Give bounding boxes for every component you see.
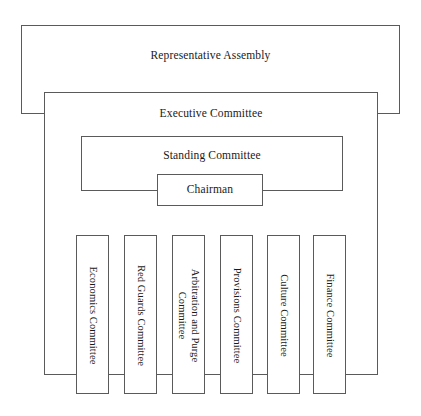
sub-committee-label-5: Culture Committee [268, 236, 299, 395]
org-chart: Representative Assembly Executive Commit… [0, 0, 421, 416]
sub-committee-label-3: Arbitration and Purge Committee [173, 236, 204, 395]
sub-committee-box-1[interactable]: Economics Committee [76, 235, 109, 394]
standing-committee-label: Standing Committee [82, 149, 342, 161]
sub-committee-label-4: Provisions Committee [221, 236, 252, 395]
chairman-label: Chairman [158, 183, 262, 195]
sub-committee-box-6[interactable]: Finance Committee [313, 235, 346, 394]
executive-committee-label: Executive Committee [45, 107, 377, 119]
representative-assembly-label: Representative Assembly [22, 49, 399, 61]
sub-committee-box-2[interactable]: Red Guards Committee [124, 235, 157, 394]
sub-committee-label-1: Economics Committee [77, 236, 108, 395]
sub-committee-box-3[interactable]: Arbitration and Purge Committee [172, 235, 205, 394]
chairman-box[interactable]: Chairman [157, 174, 263, 206]
sub-committee-box-4[interactable]: Provisions Committee [220, 235, 253, 394]
sub-committee-box-5[interactable]: Culture Committee [267, 235, 300, 394]
sub-committee-label-2: Red Guards Committee [125, 236, 156, 395]
sub-committee-label-6: Finance Committee [314, 236, 345, 395]
